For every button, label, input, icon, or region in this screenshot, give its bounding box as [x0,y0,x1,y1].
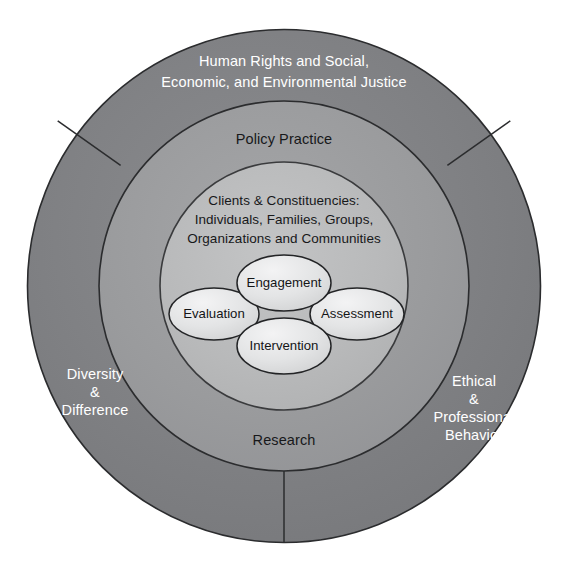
outer-left-line-1: Diversity [67,366,124,382]
middle-ring-bottom-label: Research [253,432,316,448]
outer-right-line-2: & [469,391,479,407]
evaluation-label: Evaluation [183,306,245,321]
outer-left-line-2: & [90,384,100,400]
outer-right-line-4: Behavior [445,427,503,443]
inner-line-3: Organizations and Communities [187,231,381,246]
outer-top-line-1: Human Rights and Social, [199,53,369,69]
inner-line-2: Individuals, Families, Groups, [195,212,374,227]
inner-line-1: Clients & Constituencies: [208,193,359,208]
assessment-label: Assessment [321,306,393,321]
diagram-root: Human Rights and Social, Economic, and E… [0,0,568,572]
concentric-circles-diagram: Human Rights and Social, Economic, and E… [0,0,568,572]
outer-top-line-2: Economic, and Environmental Justice [161,74,406,90]
ellipse-engagement[interactable]: Engagement [237,255,331,311]
outer-left-line-3: Difference [62,402,129,418]
middle-ring-top-label: Policy Practice [236,131,333,147]
outer-right-line-1: Ethical [452,373,496,389]
ellipse-intervention[interactable]: Intervention [237,318,331,374]
intervention-label: Intervention [250,338,319,353]
engagement-label: Engagement [247,275,322,290]
inner-circle-label: Clients & Constituencies: Individuals, F… [187,193,381,246]
outer-right-line-3: Professional [434,409,515,425]
